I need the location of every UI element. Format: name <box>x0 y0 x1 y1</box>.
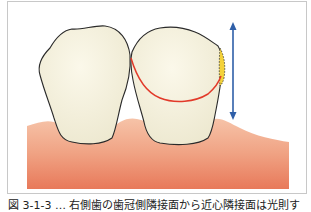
arrow-up-icon <box>230 22 237 30</box>
yellow-dotted-area <box>219 48 225 86</box>
figure-caption: 図 3-1-3 … 右側歯の歯冠側隣接面から近心隣接面は光則す <box>8 199 300 212</box>
dental-illustration <box>0 0 311 212</box>
arrow-down-icon <box>230 112 237 120</box>
